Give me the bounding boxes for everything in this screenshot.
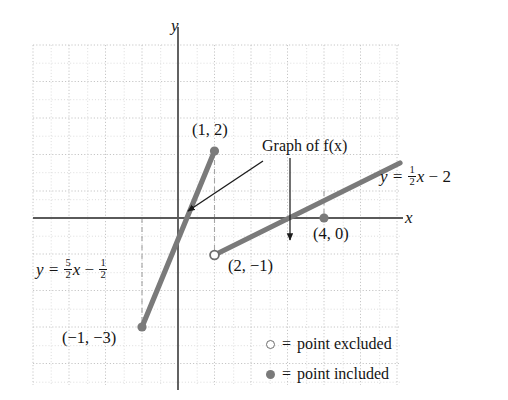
eq-shallow-lhs: y = [380,167,403,186]
x-axis-letter: x [405,208,413,227]
point-label-2-neg1: (2, −1) [228,258,273,275]
dashed-guides [142,151,324,327]
endpoint-markers [137,146,328,331]
eq-steep-variable: x [73,260,81,279]
eq-steep-constant-numerator: 1 [99,258,107,270]
eq-steep-slope-fraction: 5 2 [64,258,72,281]
point-label-4-0: (4, 0) [313,226,349,243]
eq-steep-constant-fraction: 1 2 [99,258,107,281]
filled-circle-icon [266,370,275,379]
legend-item-included: = point included [266,365,389,383]
open-circle-icon [266,340,275,349]
x-axis-label: x [405,209,413,226]
legend-included-label: point included [297,365,389,383]
eq-steep-constant-denominator: 2 [99,270,107,281]
point-closed-1-2 [210,146,219,155]
point-closed-neg1-neg3 [137,322,146,331]
graph-of-f-annotation: Graph of f(x) [262,138,347,154]
point-label-neg1-neg3: (−1, −3) [62,330,116,347]
function-graph [142,151,400,327]
legend-excluded-equals: = [282,335,291,353]
point-label-1-2: (1, 2) [192,122,228,139]
graph-of-f-text: Graph of f(x) [262,137,347,154]
legend-item-excluded: = point excluded [266,335,392,353]
y-axis-letter: y [171,16,179,35]
legend-excluded-label: point excluded [297,335,392,353]
segment-shallow [215,163,401,255]
eq-shallow-slope-denominator: 2 [408,177,416,188]
piecewise-function-figure: x y (1, 2) (−1, −3) (2, −1) (4, 0) Graph… [0,0,508,400]
eq-shallow-constant: 2 [442,167,451,186]
legend-included-equals: = [282,365,291,383]
eq-steep-slope-denominator: 2 [64,270,72,281]
point-open-2-neg1 [210,251,219,260]
eq-shallow-variable: x [417,167,425,186]
eq-steep-minus-sign: − [85,260,95,279]
equation-steep-branch: y = 5 2 x − 1 2 [36,258,108,281]
eq-shallow-minus-sign: − [429,167,439,186]
point-closed-4-0 [319,213,328,222]
y-axis-label: y [171,17,179,34]
eq-steep-lhs: y = [36,260,59,279]
eq-shallow-slope-numerator: 1 [408,165,416,177]
equation-shallow-branch: y = 1 2 x − 2 [380,165,451,188]
eq-shallow-slope-fraction: 1 2 [408,165,416,188]
eq-steep-slope-numerator: 5 [64,258,72,270]
